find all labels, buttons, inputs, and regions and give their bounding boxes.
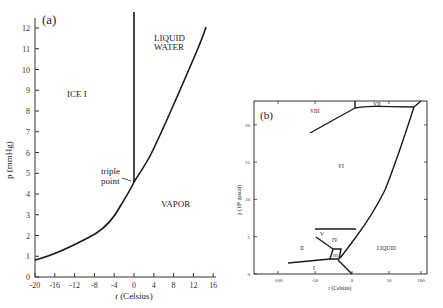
- triple-point-arrow: [122, 178, 131, 181]
- panel-b-frame: [254, 101, 427, 274]
- panel-b-x-axis-title: t (Celsius): [329, 285, 352, 292]
- liquid-boundary: [340, 107, 414, 258]
- y-tick-label: 10: [245, 197, 251, 202]
- x-tick-label: -100: [273, 278, 283, 283]
- x-tick-label: 0: [351, 278, 354, 283]
- y-tick-label: 10: [22, 66, 30, 75]
- y-tick-label: 1: [26, 252, 30, 261]
- region-label-ice: ICE I: [67, 89, 87, 99]
- region-label-water: WATER: [154, 42, 184, 52]
- x-tick-label: -50: [312, 278, 319, 283]
- panel-a-y-axis-title: p (mmHg): [4, 141, 14, 179]
- x-tick-label: 100: [417, 278, 425, 283]
- panel-b-label: (b): [260, 109, 273, 122]
- x-tick-label: -16: [49, 281, 60, 290]
- y-tick-label: 12: [22, 24, 30, 33]
- region-label-vi: VI: [338, 163, 344, 169]
- x-tick-label: 12: [189, 281, 197, 290]
- panel-a-label: (a): [42, 12, 56, 27]
- region-label-v: V: [320, 231, 324, 237]
- x-tick-label: 16: [209, 281, 217, 290]
- triple-point-label-line2: point: [101, 176, 120, 186]
- y-tick-label: 15: [245, 160, 251, 165]
- y-tick-label: 9: [26, 86, 30, 95]
- x-tick-label: 50: [387, 278, 393, 283]
- panel-b-x-tick-labels: -100 -50 0 50 100: [273, 278, 425, 283]
- x-tick-label: 4: [152, 281, 156, 290]
- y-tick-label: 5: [26, 169, 30, 178]
- region-label-viii: VIII: [310, 108, 320, 114]
- y-tick-label: 4: [26, 190, 30, 199]
- x-tick-label: -12: [69, 281, 80, 290]
- panel-a-y-tick-labels: 0 1 2 3 4 5 6 7 8 9 10 11 12: [22, 24, 30, 282]
- y-tick-label: 7: [26, 128, 30, 137]
- panel-a-x-ticks: [35, 273, 213, 277]
- y-tick-label: 5: [248, 235, 251, 240]
- region-label-liquid-b: LIQUID: [377, 245, 396, 251]
- panel-a: 0 1 2 3 4 5 6 7 8 9 10 11 12: [4, 12, 217, 301]
- vapor-pressure-curve: [35, 27, 206, 260]
- vi-vii-boundary: [355, 106, 414, 108]
- region-label-i: I: [313, 265, 315, 271]
- x-tick-label: -8: [91, 281, 98, 290]
- y-tick-label: 0: [248, 272, 251, 277]
- phase-diagram-figure: 0 1 2 3 4 5 6 7 8 9 10 11 12: [0, 0, 443, 308]
- x-tick-label: -4: [111, 281, 118, 290]
- region-label-vapor: VAPOR: [161, 199, 190, 209]
- triple-point-label-line1: triple: [101, 166, 120, 176]
- x-tick-label: 8: [172, 281, 176, 290]
- x-tick-label: 0: [132, 281, 136, 290]
- panel-b-phase-boundaries: [288, 101, 421, 274]
- y-tick-label: 8: [26, 107, 30, 116]
- panel-b-y-tick-labels: 0 5 10 15 20: [245, 123, 251, 277]
- panel-b-y-axis-title: p (10⁸ pascal): [236, 185, 243, 215]
- vii-liquid-boundary: [414, 101, 421, 107]
- panel-b: 0 5 10 15 20 -100 -50 0 50 100 t (Celsiu…: [236, 101, 427, 292]
- panel-a-y-ticks: [35, 28, 39, 277]
- region-label-ii: II: [300, 245, 304, 251]
- y-tick-label: 2: [26, 232, 30, 241]
- x-tick-label: -20: [30, 281, 41, 290]
- i-ii-boundary: [288, 259, 330, 263]
- y-tick-label: 20: [245, 123, 251, 128]
- panel-a-x-tick-labels: -20 -16 -12 -8 -4 0 4 8 12 16: [30, 281, 218, 290]
- region-label-vii: VII: [373, 101, 381, 107]
- region-label-iv: IV: [332, 237, 338, 243]
- y-tick-label: 6: [26, 149, 30, 158]
- y-tick-label: 3: [26, 211, 30, 220]
- ii-v-boundary: [316, 237, 333, 249]
- y-tick-label: 11: [22, 45, 30, 54]
- panel-a-x-axis-title: t (Celsius): [115, 291, 152, 301]
- i-liquid-boundary: [338, 260, 352, 274]
- region-label-iii: III: [333, 253, 338, 258]
